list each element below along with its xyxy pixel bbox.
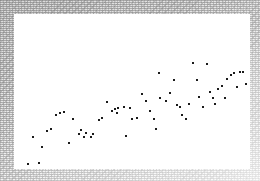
data-point [159,97,161,99]
data-point [217,88,219,90]
data-point [32,136,34,138]
data-point [59,112,61,114]
data-point [206,63,208,65]
data-point [63,111,65,113]
data-point [38,162,40,164]
data-point [226,78,228,80]
data-point [85,132,87,134]
data-point [155,128,157,130]
data-point [221,85,223,87]
data-point [125,135,127,137]
data-point [141,93,143,95]
data-point [145,100,147,102]
data-point [158,72,160,74]
data-point [209,91,211,93]
data-point [176,104,178,106]
data-point [123,106,125,108]
data-point [202,106,204,108]
data-point [185,118,187,120]
data-point [92,133,94,135]
data-point [78,133,80,135]
data-point [245,83,247,85]
data-point [179,106,181,108]
data-point [90,136,92,138]
data-point [136,117,138,119]
plot-canvas [14,14,250,169]
data-point [83,136,85,138]
data-point [165,100,167,102]
data-point [131,118,133,120]
data-point [116,112,118,114]
data-point [214,103,216,105]
data-point [27,163,29,165]
data-point [111,110,113,112]
data-point [46,130,48,132]
data-point [55,114,57,116]
data-point [236,86,238,88]
data-point [192,62,194,64]
scatter-plot-figure [0,0,260,181]
data-point [242,71,244,73]
data-point [196,79,198,81]
data-point [188,103,190,105]
data-point [239,71,241,73]
data-point [169,92,171,94]
data-point [129,107,131,109]
data-point [68,142,70,144]
data-point [149,110,151,112]
data-point [117,107,119,109]
data-point [153,118,155,120]
data-point [233,72,235,74]
data-point [230,74,232,76]
data-point [173,79,175,81]
data-point [80,129,82,131]
data-point [50,128,52,130]
data-point [101,117,103,119]
data-point [41,146,43,148]
data-point [181,114,183,116]
data-point [224,97,226,99]
data-point [106,101,108,103]
data-point [98,119,100,121]
data-point [72,118,74,120]
data-point [114,108,116,110]
data-point [212,97,214,99]
data-point [198,96,200,98]
